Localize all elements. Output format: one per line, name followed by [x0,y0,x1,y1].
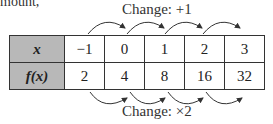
cell: −1 [65,36,105,63]
function-table: x −1 0 1 2 3 f(x) 2 4 8 16 32 [9,35,265,90]
cell: 2 [65,63,105,90]
cell: 8 [145,63,185,90]
cell: 1 [145,36,185,63]
cell: 16 [185,63,225,90]
cell: 0 [105,36,145,63]
row-header-fx: f(x) [10,63,65,90]
cell: 3 [225,36,265,63]
top-arrows [88,22,240,34]
cell: 4 [105,63,145,90]
cell: 2 [185,36,225,63]
table-row-fx: f(x) 2 4 8 16 32 [10,63,265,90]
table-row-x: x −1 0 1 2 3 [10,36,265,63]
cell: 32 [225,63,265,90]
change-times-two-label: Change: ×2 [122,103,192,120]
row-header-x: x [10,36,65,63]
bottom-arrows [90,92,242,104]
